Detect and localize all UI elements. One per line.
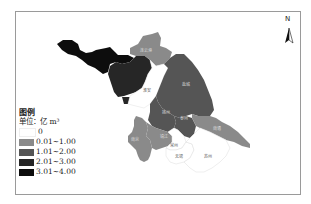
legend-item: 3.01~4.00 <box>19 167 76 177</box>
legend-swatch <box>19 128 36 137</box>
label-yangzhou: 扬州 <box>162 109 170 115</box>
legend-swatch <box>19 169 34 176</box>
legend-item: 0.01~1.00 <box>19 137 76 147</box>
legend: 图例 单位：亿 m³ 0 0.01~1.00 1.01~2.00 2.01~3.… <box>19 107 76 177</box>
label-nantong: 南通 <box>213 125 221 131</box>
label-yancheng: 盐城 <box>182 81 190 87</box>
north-arrow-icon <box>285 28 293 43</box>
label-lianyungang: 连云港 <box>140 47 152 53</box>
legend-label: 0 <box>38 127 43 137</box>
label-wuxi: 无锡 <box>175 153 183 159</box>
label-suzhou: 苏州 <box>204 153 212 159</box>
legend-item: 2.01~3.00 <box>19 157 76 167</box>
label-nanjing: 南京 <box>131 136 139 142</box>
legend-label: 0.01~1.00 <box>36 137 76 147</box>
legend-title: 图例 <box>19 107 76 117</box>
legend-unit: 单位：亿 m³ <box>19 117 76 127</box>
legend-label: 1.01~2.00 <box>36 147 76 157</box>
legend-label: 3.01~4.00 <box>36 167 76 177</box>
legend-swatch <box>19 159 34 166</box>
north-label: N <box>285 15 290 23</box>
label-changzhou: 常州 <box>170 142 178 148</box>
legend-swatch <box>19 149 34 156</box>
legend-item: 1.01~2.00 <box>19 147 76 157</box>
label-zhenjiang: 镇江 <box>160 133 168 139</box>
label-huaian: 淮安 <box>143 87 151 93</box>
label-taizhou: 泰州 <box>180 115 188 121</box>
legend-item: 0 <box>19 127 76 137</box>
legend-swatch <box>19 139 34 146</box>
legend-label: 2.01~3.00 <box>36 157 76 167</box>
